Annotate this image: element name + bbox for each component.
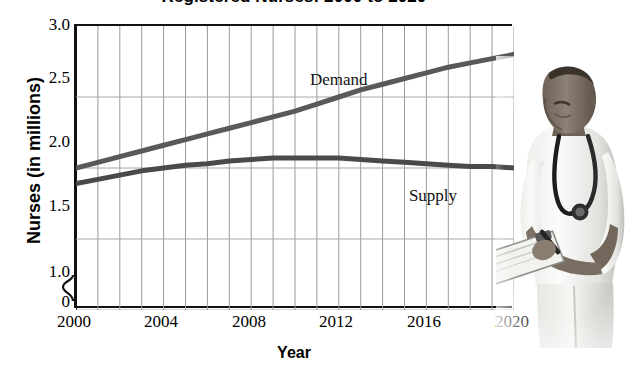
plot-svg bbox=[76, 26, 514, 310]
x-tick-2008: 2008 bbox=[214, 312, 284, 332]
y-tick-3.0: 3.0 bbox=[26, 15, 70, 35]
y-tick-2.0: 2.0 bbox=[26, 132, 70, 152]
plot-area: DemandSupply bbox=[74, 24, 512, 308]
series-label-demand: Demand bbox=[310, 70, 368, 90]
x-tick-2004: 2004 bbox=[126, 312, 196, 332]
chart-title: Registered Nurses: 2000 to 2020 bbox=[74, 0, 514, 7]
y-tick-2.5: 2.5 bbox=[26, 68, 70, 88]
x-axis-title: Year bbox=[74, 344, 514, 362]
male-nurse-with-clipboard-photo bbox=[496, 56, 641, 352]
x-tick-2012: 2012 bbox=[301, 312, 371, 332]
y-tick-1.5: 1.5 bbox=[26, 196, 70, 216]
series-label-supply: Supply bbox=[409, 186, 457, 206]
nurses-supply-demand-chart: Registered Nurses: 2000 to 2020 Nurses (… bbox=[0, 0, 641, 370]
x-axis-tick-labels: 2000 2004 2008 2012 2016 2020 bbox=[0, 312, 560, 338]
x-tick-2016: 2016 bbox=[389, 312, 459, 332]
x-tick-2000: 2000 bbox=[39, 312, 109, 332]
